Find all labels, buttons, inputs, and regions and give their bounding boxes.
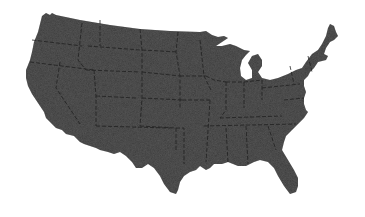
- us-map-svg: [0, 0, 365, 217]
- us-landmass: [26, 13, 338, 194]
- us-map: [0, 0, 365, 217]
